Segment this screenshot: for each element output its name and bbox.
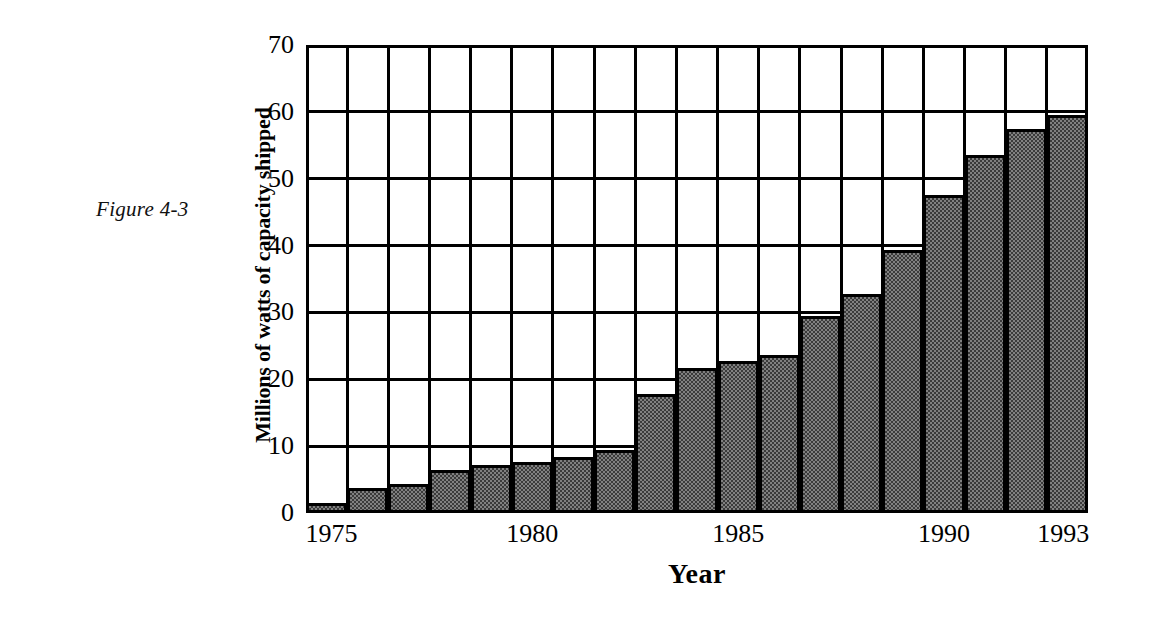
bar-cell	[347, 45, 388, 513]
bar	[965, 155, 1006, 513]
bar-cell	[800, 45, 841, 513]
bar	[800, 316, 841, 513]
y-axis-tick-labels: 010203040506070	[232, 45, 294, 513]
bar-cell	[635, 45, 676, 513]
bar-cell	[594, 45, 635, 513]
bar	[306, 503, 347, 513]
x-axis-tick-label: 1990	[918, 519, 970, 549]
bar-cell	[1047, 45, 1088, 513]
bar	[1006, 129, 1047, 513]
bar-cell	[512, 45, 553, 513]
bar-cell	[676, 45, 717, 513]
bar-cell	[471, 45, 512, 513]
bar	[841, 294, 882, 513]
bar-cell	[306, 45, 347, 513]
y-axis-tick-label: 70	[240, 32, 294, 58]
bar	[471, 465, 512, 513]
bar	[676, 368, 717, 513]
bar	[1047, 115, 1088, 513]
y-axis-tick-label: 20	[240, 366, 294, 392]
bar-series	[306, 45, 1088, 513]
bar	[512, 462, 553, 513]
x-axis-tick-label: 1975	[306, 519, 358, 549]
x-axis-title: Year	[306, 558, 1088, 590]
bar	[347, 488, 388, 513]
bar	[923, 195, 964, 513]
x-axis-tick-labels: 19751980198519901993	[306, 519, 1088, 553]
figure-caption: Figure 4-3	[96, 197, 189, 222]
y-axis-tick-label: 30	[240, 299, 294, 325]
bar-cell	[923, 45, 964, 513]
bar	[759, 355, 800, 513]
x-axis-tick-label: 1980	[506, 519, 558, 549]
bar-cell	[388, 45, 429, 513]
x-axis-tick-label: 1985	[712, 519, 764, 549]
bar-cell	[841, 45, 882, 513]
y-axis-tick-label: 40	[240, 233, 294, 259]
bar	[635, 394, 676, 513]
bar	[882, 250, 923, 513]
bar	[594, 450, 635, 514]
y-axis-tick-label: 0	[240, 500, 294, 526]
y-axis-tick-label: 60	[240, 99, 294, 125]
x-axis-tick-label: 1993	[1037, 519, 1089, 549]
y-axis-tick-label: 10	[240, 433, 294, 459]
bar-cell	[882, 45, 923, 513]
bar-cell	[759, 45, 800, 513]
chart-plot-area	[306, 45, 1088, 513]
bar-cell	[718, 45, 759, 513]
bar-cell	[965, 45, 1006, 513]
bar	[718, 361, 759, 513]
bar	[388, 484, 429, 513]
bar-cell	[1006, 45, 1047, 513]
bar-cell	[553, 45, 594, 513]
bar	[429, 470, 470, 513]
y-axis-tick-label: 50	[240, 166, 294, 192]
bar-cell	[429, 45, 470, 513]
bar	[553, 457, 594, 513]
